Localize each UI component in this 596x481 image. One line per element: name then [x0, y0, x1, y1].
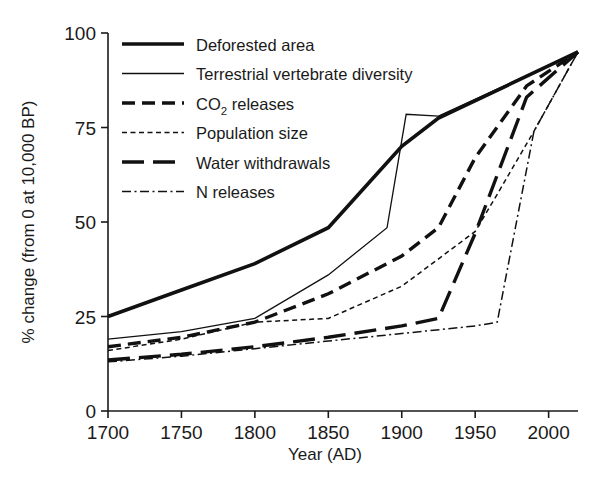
x-axis-ticks: [108, 411, 549, 418]
series-line-water-withdrawals: [108, 52, 578, 360]
x-tick-label: 1900: [381, 422, 423, 443]
legend-label-terrestrial-vertebrate-diversity: Terrestrial vertebrate diversity: [196, 65, 413, 83]
series-line-n-releases: [108, 52, 578, 362]
chart-legend: Deforested areaTerrestrial vertebrate di…: [122, 36, 413, 202]
y-axis-title: % change (from 0 at 10,000 BP): [19, 101, 38, 344]
y-axis-ticks: [101, 33, 108, 411]
series-line-population-size: [108, 52, 578, 351]
series-line-co2-releases: [108, 52, 578, 347]
x-tick-label: 1850: [307, 422, 349, 443]
y-axis-tick-labels: 0255075100: [64, 23, 96, 422]
legend-label-population-size: Population size: [196, 124, 308, 142]
x-axis-tick-labels: 1700175018001850190019502000: [87, 422, 570, 443]
legend-label-n-releases: N releases: [196, 183, 275, 201]
x-tick-label: 1950: [454, 422, 496, 443]
y-tick-label: 100: [64, 23, 96, 44]
y-tick-label: 75: [75, 118, 96, 139]
x-tick-label: 1700: [87, 422, 129, 443]
x-tick-label: 2000: [527, 422, 569, 443]
series-line-terrestrial-vertebrate-diversity: [108, 52, 578, 339]
legend-label-water-withdrawals: Water withdrawals: [196, 154, 330, 172]
legend-label-deforested-area: Deforested area: [196, 36, 315, 54]
x-axis-title: Year (AD): [288, 445, 362, 464]
y-tick-label: 50: [75, 212, 96, 233]
series-paths-group: [108, 52, 578, 362]
legend-label-co2-releases: CO2 releases: [196, 95, 294, 117]
x-tick-label: 1750: [160, 422, 202, 443]
y-tick-label: 25: [75, 307, 96, 328]
y-tick-label: 0: [85, 401, 96, 422]
series-line-deforested-area: [108, 52, 578, 317]
figure-container: 0255075100 1700175018001850190019502000 …: [0, 0, 596, 481]
line-chart: 0255075100 1700175018001850190019502000 …: [0, 0, 596, 481]
x-tick-label: 1800: [234, 422, 276, 443]
